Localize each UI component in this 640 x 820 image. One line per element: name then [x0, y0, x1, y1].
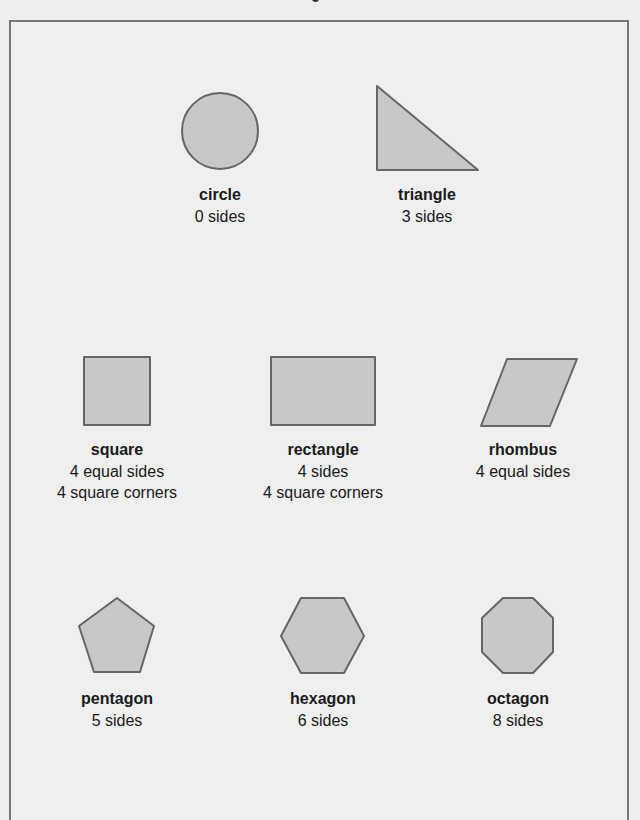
square-label: square 4 equal sides 4 square corners	[17, 439, 217, 504]
triangle-label: triangle 3 sides	[327, 184, 527, 227]
hexagon-label: hexagon 6 sides	[223, 688, 423, 731]
square-shape	[84, 357, 150, 425]
shape-corners: 4 square corners	[223, 482, 423, 504]
shape-sides: 3 sides	[327, 206, 527, 228]
shape-sides: 4 equal sides	[17, 461, 217, 483]
shape-name: rectangle	[223, 439, 423, 461]
circle-label: circle 0 sides	[120, 184, 320, 227]
shape-name: triangle	[327, 184, 527, 206]
shape-sides: 4 equal sides	[423, 461, 623, 483]
shape-sides: 6 sides	[223, 710, 423, 732]
shape-sides: 4 sides	[223, 461, 423, 483]
rhombus-shape	[481, 359, 577, 426]
shape-name: pentagon	[17, 688, 217, 710]
shape-name: octagon	[418, 688, 618, 710]
octagon-label: octagon 8 sides	[418, 688, 618, 731]
circle-shape	[182, 93, 258, 169]
shape-sides: 8 sides	[418, 710, 618, 732]
octagon-shape	[482, 598, 553, 673]
pentagon-shape	[79, 598, 154, 672]
shape-corners: 4 square corners	[17, 482, 217, 504]
hexagon-shape	[281, 598, 364, 673]
pentagon-label: pentagon 5 sides	[17, 688, 217, 731]
shape-name: square	[17, 439, 217, 461]
shape-name: hexagon	[223, 688, 423, 710]
rhombus-label: rhombus 4 equal sides	[423, 439, 623, 482]
shape-name: rhombus	[423, 439, 623, 461]
rectangle-label: rectangle 4 sides 4 square corners	[223, 439, 423, 504]
shape-sides: 0 sides	[120, 206, 320, 228]
triangle-shape	[377, 86, 478, 170]
shape-sides: 5 sides	[17, 710, 217, 732]
rectangle-shape	[271, 357, 375, 425]
shape-name: circle	[120, 184, 320, 206]
